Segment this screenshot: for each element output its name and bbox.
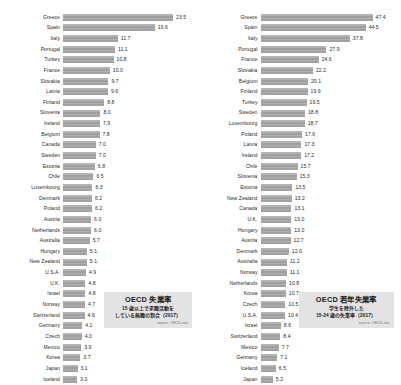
category-label: Norway [0, 302, 63, 307]
category-label: Ireland [0, 121, 63, 126]
bar-row: New Zealand5.1 [0, 258, 201, 267]
bar-row: Poland6.2 [0, 205, 201, 214]
category-label: Poland [0, 206, 63, 211]
category-label: Mexico [0, 345, 63, 350]
category-label: U.S.A. [201, 313, 261, 318]
category-label: Germany [0, 323, 63, 328]
bar-row: Chile6.5 [0, 173, 201, 182]
category-label: Chile [201, 164, 261, 169]
value-label: 7.9 [103, 121, 110, 126]
bar-track: 6.2 [63, 195, 201, 202]
bar [261, 46, 327, 53]
bar [63, 333, 82, 340]
bar-row: Slovakia9.7 [0, 77, 201, 86]
value-label: 18.8 [308, 110, 318, 115]
category-label: Korea [201, 291, 261, 296]
bar-track: 10.0 [63, 67, 201, 74]
bar-track: 7.0 [63, 141, 201, 148]
value-label: 6.3 [95, 185, 102, 190]
bar [63, 365, 78, 372]
bar-row: Belgium7.8 [0, 130, 201, 139]
category-label: Italy [201, 36, 261, 41]
bar-track: 8.0 [63, 110, 201, 117]
bar-track: 7.8 [63, 131, 201, 138]
category-label: Latvia [0, 89, 63, 94]
bar [261, 163, 298, 170]
bar [63, 216, 91, 223]
bar-row: Finland19.9 [201, 87, 401, 96]
bar [261, 67, 313, 74]
bar [63, 46, 115, 53]
category-label: Switzerland [201, 334, 261, 339]
value-label: 4.9 [89, 270, 96, 275]
bar-track: 7.1 [261, 354, 401, 361]
category-label: Australia [0, 238, 63, 243]
bar-track: 17.3 [261, 141, 401, 148]
bar-row: U.K.4.8 [0, 279, 201, 288]
value-label: 13.0 [294, 228, 304, 233]
bar [261, 290, 286, 297]
bar-track: 17.6 [261, 131, 401, 138]
category-label: Austria [201, 238, 261, 243]
value-label: 12.7 [294, 238, 304, 243]
bar-row: Netherlands10.8 [201, 279, 401, 288]
bar-row: Germany7.1 [201, 354, 401, 363]
bar-row: Iceland3.0 [0, 375, 201, 384]
category-label: Czech [0, 334, 63, 339]
unemployment-rate-chart: Greece23.5Spain19.6Italy11.7Portugal11.1… [0, 13, 201, 341]
category-label: Luxembourg [201, 121, 261, 126]
value-label: 10.4 [288, 313, 298, 318]
bar-track: 6.8 [63, 163, 201, 170]
bar-row: Denmark6.2 [0, 194, 201, 203]
bar [261, 333, 281, 340]
category-label: Belgium [201, 79, 261, 84]
bar-rows-youth-unemployment: Greece47.4Spain44.5Italy37.8Portugal27.9… [201, 13, 401, 385]
bar [261, 259, 287, 266]
bar-track: 20.1 [261, 78, 401, 85]
bar-track: 3.1 [63, 365, 201, 372]
value-label: 10.8 [117, 57, 127, 62]
bar-row: Belgium20.1 [201, 77, 401, 86]
bar-track: 22.2 [261, 67, 401, 74]
value-label: 13.0 [294, 217, 304, 222]
category-label: Greece [201, 15, 261, 20]
bar-track: 4.9 [63, 269, 201, 276]
value-label: 6.8 [98, 164, 105, 169]
bar [261, 131, 303, 138]
category-label: Australia [201, 259, 261, 264]
bar-track: 19.9 [261, 88, 401, 95]
bar [63, 120, 100, 127]
bar [261, 35, 350, 42]
bar [63, 237, 90, 244]
value-label: 47.4 [376, 15, 386, 20]
bar [261, 78, 308, 85]
value-label: 7.7 [282, 345, 289, 350]
bar-track: 5.1 [63, 248, 201, 255]
bar-track: 6.0 [63, 216, 201, 223]
value-label: 19.5 [310, 100, 320, 105]
bar-track: 18.8 [261, 110, 401, 117]
value-label: 7.0 [99, 142, 106, 147]
bar-track: 11.1 [261, 269, 401, 276]
category-label: Slovakia [201, 68, 261, 73]
bar-track: 11.2 [261, 259, 401, 266]
category-label: U.S.A. [0, 270, 63, 275]
bar-row: Slovenia15.3 [201, 173, 401, 182]
bar-track: 5.7 [63, 237, 201, 244]
value-label: 8.8 [107, 100, 114, 105]
bar-track: 12.0 [261, 248, 401, 255]
category-label: Norway [201, 270, 261, 275]
category-label: Ireland [201, 153, 261, 158]
category-label: U.K. [201, 217, 261, 222]
category-label: Hungary [0, 249, 63, 254]
bar-track: 47.4 [261, 14, 401, 21]
bar-row: Estonia6.8 [0, 162, 201, 171]
bar-track: 19.6 [63, 24, 201, 31]
bar [63, 56, 114, 63]
category-label: Czech [201, 302, 261, 307]
bar-track: 11.1 [63, 46, 201, 53]
bar-row: Ireland17.2 [201, 151, 401, 160]
bar [261, 110, 305, 117]
bar [261, 195, 292, 202]
value-label: 6.5 [279, 366, 286, 371]
